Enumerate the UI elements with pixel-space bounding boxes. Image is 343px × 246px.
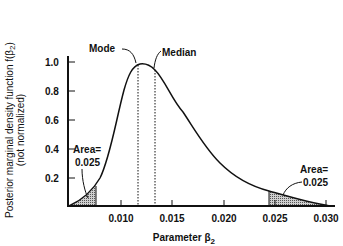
x-axis-title: Parameter β2 xyxy=(153,232,216,246)
x-tick-labels: 0.010 0.015 0.020 0.025 0.030 xyxy=(108,213,338,224)
posterior-density-chart: 1.0 0.8 0.6 0.4 0.2 0.010 0.015 0.020 0.… xyxy=(0,0,343,246)
x-tick-label: 0.030 xyxy=(313,213,338,224)
median-leader xyxy=(154,51,161,68)
mode-leader xyxy=(122,49,136,63)
y-tick-label: 0.2 xyxy=(45,173,59,184)
y-tick-label: 0.6 xyxy=(45,115,59,126)
right-area-value: 0.025 xyxy=(303,177,328,188)
right-area-leader xyxy=(283,182,302,195)
svg-text:(not normalized): (not normalized) xyxy=(15,94,26,166)
y-ticks xyxy=(68,62,75,178)
x-tick-label: 0.015 xyxy=(159,213,184,224)
y-axis-title: Posterior marginal density function f(β2… xyxy=(4,42,26,218)
right-area-label: Area= xyxy=(300,164,328,175)
density-curve xyxy=(69,64,330,206)
left-area-value: 0.025 xyxy=(75,157,100,168)
y-tick-label: 1.0 xyxy=(45,57,59,68)
x-tick-label: 0.020 xyxy=(211,213,236,224)
median-label: Median xyxy=(162,47,196,58)
y-tick-labels: 1.0 0.8 0.6 0.4 0.2 xyxy=(45,57,59,184)
y-tick-label: 0.8 xyxy=(45,86,59,97)
x-tick-label: 0.025 xyxy=(262,213,287,224)
mode-label: Mode xyxy=(89,43,116,54)
y-tick-label: 0.4 xyxy=(45,144,59,155)
x-tick-label: 0.010 xyxy=(108,213,133,224)
left-area-label: Area= xyxy=(73,144,101,155)
